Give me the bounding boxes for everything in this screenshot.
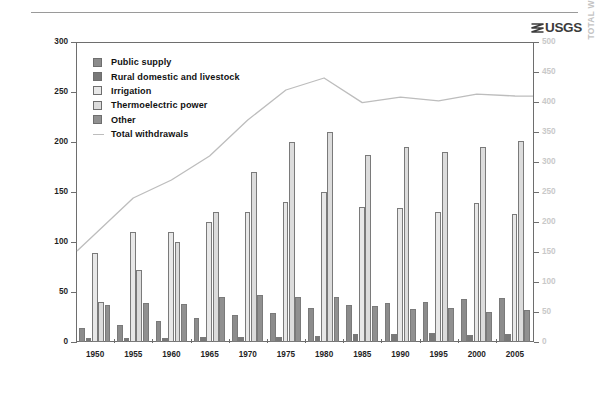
total-withdrawals-path [77,78,533,251]
usgs-water-withdrawals-figure: USGS WITHDRAWALS, IN BILLION GALLONS PER… [0,0,609,396]
total-withdrawals-line [0,0,609,396]
